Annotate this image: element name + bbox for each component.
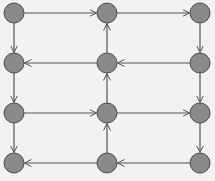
edges-layer: [14, 13, 200, 163]
node-n02: [190, 3, 210, 23]
node-n12: [190, 53, 210, 73]
node-n01: [97, 3, 117, 23]
node-n10: [4, 53, 24, 73]
node-n32: [190, 153, 210, 173]
node-n00: [4, 3, 24, 23]
node-n22: [190, 103, 210, 123]
node-n21: [97, 103, 117, 123]
node-n20: [4, 103, 24, 123]
node-n11: [97, 53, 117, 73]
node-n31: [97, 153, 117, 173]
node-n30: [4, 153, 24, 173]
grid-graph-diagram: [0, 0, 215, 181]
